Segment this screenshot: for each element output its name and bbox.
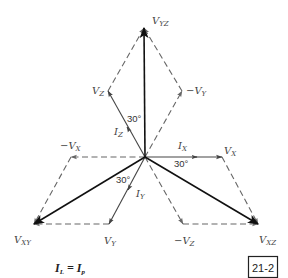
label-vx: VX bbox=[224, 145, 237, 158]
label-vy: VY bbox=[104, 235, 117, 248]
equation-operator: = bbox=[64, 261, 77, 275]
label-negvz: −VZ bbox=[174, 235, 195, 248]
vector-vxy bbox=[34, 157, 145, 224]
label-vyz: VYZ bbox=[152, 15, 169, 28]
equation: IL = Ip bbox=[54, 261, 85, 276]
label-vz: VZ bbox=[92, 85, 104, 98]
equation-rhs-sub: p bbox=[80, 268, 85, 276]
three-phase-delta-phasor-diagram: VYZVXYVXZVZVYVX−VY−VX−VZIZIYIX30°30°30° … bbox=[0, 0, 288, 278]
vector-vyz bbox=[144, 28, 145, 157]
construction-lines bbox=[34, 28, 258, 224]
angle-label-1: 30° bbox=[127, 113, 142, 124]
line-voltage-vectors bbox=[34, 28, 258, 224]
construction-vz-to-vyz bbox=[108, 28, 144, 91]
angle-label-2: 30° bbox=[174, 158, 189, 169]
angle-label-3: 30° bbox=[116, 174, 131, 185]
vector-negvy bbox=[145, 91, 182, 157]
label-vxz: VXZ bbox=[259, 234, 276, 247]
figure-number: 21-2 bbox=[252, 262, 274, 274]
label-vxy: VXY bbox=[14, 234, 32, 247]
figure-number-box: 21-2 bbox=[249, 257, 278, 278]
construction-negvy-to-vyz bbox=[144, 28, 182, 91]
vector-vxz bbox=[145, 157, 258, 224]
svg-text:IL = Ip: IL = Ip bbox=[54, 261, 85, 276]
label-iz: IZ bbox=[113, 126, 123, 139]
vector-vz bbox=[108, 91, 145, 157]
label-ix: IX bbox=[177, 140, 188, 153]
label-iy: IY bbox=[135, 188, 146, 201]
label-negvx: −VX bbox=[60, 140, 82, 153]
construction-negvx-to-vxy bbox=[34, 157, 71, 224]
label-negvy: −VY bbox=[186, 85, 208, 98]
